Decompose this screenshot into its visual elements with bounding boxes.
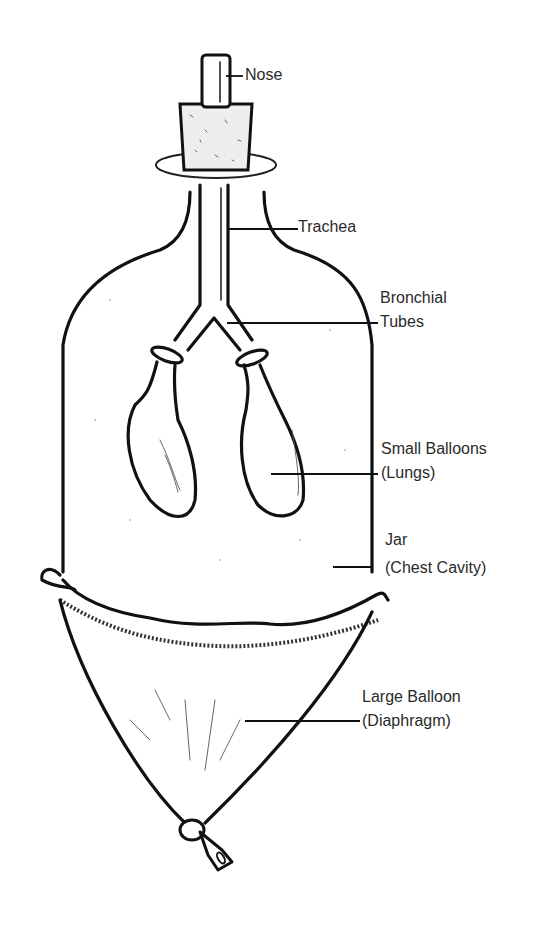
nose-tube: [202, 55, 230, 107]
diaphragm-balloon: [42, 570, 388, 823]
y-tube: [175, 185, 252, 350]
label-trachea: Trachea: [298, 215, 356, 239]
label-small-balloons: Small Balloons (Lungs): [381, 437, 487, 485]
label-large-balloon: Large Balloon (Diaphragm): [362, 685, 461, 733]
jar: [63, 192, 372, 572]
left-lung-balloon: [128, 344, 195, 517]
label-nose: Nose: [245, 63, 282, 87]
balloon-knot: [180, 820, 232, 870]
stopper: [180, 104, 252, 170]
right-lung-balloon: [235, 347, 304, 516]
label-jar: Jar (Chest Cavity): [385, 528, 486, 580]
label-bronchial-tubes: Bronchial Tubes: [380, 286, 447, 334]
lung-model-diagram: Nose Trachea Bronchial Tubes Small Ballo…: [0, 0, 543, 927]
